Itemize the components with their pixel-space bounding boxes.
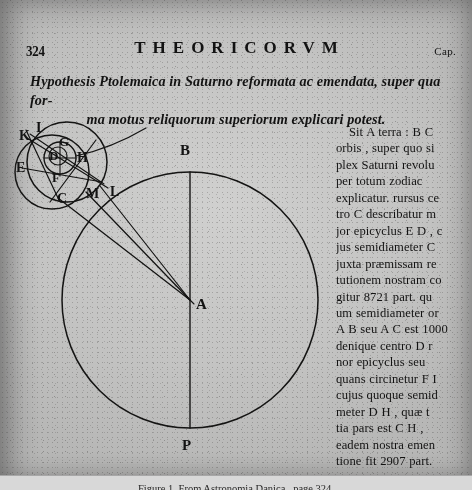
body-text-line: meter D H , quæ t	[336, 404, 472, 420]
body-text-line: tutionem nostram co	[336, 272, 472, 288]
label-point-i: I	[36, 120, 41, 135]
chapter-mark: Cap.	[434, 45, 456, 57]
body-text-line: per totum zodiac	[336, 173, 472, 189]
ptolemaic-saturn-diagram: B A P I K G D H E F C M L	[0, 110, 336, 472]
body-text-line: quans circinetur F I	[336, 371, 472, 387]
label-minor-epicycle-g: G	[59, 134, 69, 149]
sight-line-m-to-a	[86, 192, 190, 300]
label-epicycle-center: C	[57, 191, 67, 206]
diagram-canvas: B A P I K G D H E F C M L	[0, 110, 336, 472]
sight-line-c-to-a	[58, 198, 190, 300]
figure-caption: Figure 1. From Astronomia Danica , page …	[0, 477, 472, 490]
body-text-line: tione fit 2907 part.	[336, 453, 472, 469]
label-minor-epicycle-f: F	[52, 170, 60, 185]
body-text-line: jor epicyclus E D , c	[336, 223, 472, 239]
label-point-m: M	[86, 186, 99, 201]
label-minor-epicycle-h: H	[77, 150, 88, 165]
body-text-line: juxta præmissam re	[336, 256, 472, 272]
body-text-line: Revolutionum aut	[336, 470, 472, 472]
body-text-line: Sit A terra : B C	[336, 124, 472, 140]
body-text-line: jus semidiameter C	[336, 239, 472, 255]
label-deferent-bottom: P	[182, 437, 191, 453]
label-earth: A	[196, 296, 207, 312]
body-text-line: orbis , super quo si	[336, 140, 472, 156]
body-text-line: explicatur. rursus ce	[336, 190, 472, 206]
sight-line-l-to-a	[100, 186, 190, 300]
label-major-epicycle-d: D	[49, 148, 58, 163]
body-text-line: plex Saturni revolu	[336, 157, 472, 173]
label-point-l: L	[110, 184, 119, 199]
body-text-line: um semidiameter or	[336, 305, 472, 321]
body-text-line: tro C describatur m	[336, 206, 472, 222]
body-text-line: gitur 8721 part. qu	[336, 289, 472, 305]
body-text-line: cujus quoque semid	[336, 387, 472, 403]
label-major-epicycle-e: E	[16, 160, 25, 175]
label-point-k: K	[19, 128, 30, 143]
body-text-line: eadem nostra emen	[336, 437, 472, 453]
figure-caption-text: Figure 1. From Astronomia Danica , page …	[138, 483, 334, 490]
running-head: 324 THEORICORVM Cap.	[0, 38, 472, 64]
section-heading-line-1: Hypothesis Ptolemaica in Saturno reforma…	[30, 72, 442, 110]
body-text-line: nor epicyclus seu	[336, 354, 472, 370]
body-text-line: tia pars est C H ,	[336, 420, 472, 436]
page-title: THEORICORVM	[0, 38, 472, 58]
body-text-column: Sit A terra : B Corbis , super quo siple…	[336, 124, 472, 472]
scanned-page: 324 THEORICORVM Cap. Hypothesis Ptolemai…	[0, 0, 472, 490]
body-text-line: denique centro D r	[336, 338, 472, 354]
label-deferent-top: B	[180, 142, 190, 158]
body-text-line: A B seu A C est 1000	[336, 321, 472, 337]
